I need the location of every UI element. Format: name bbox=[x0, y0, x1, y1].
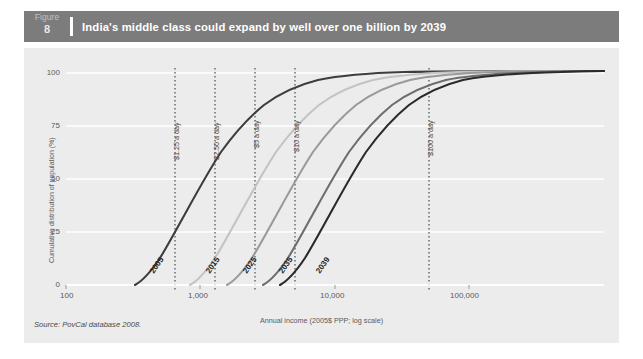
y-tick-100: 100 bbox=[34, 68, 60, 77]
threshold-label-100: $100 a day bbox=[426, 120, 435, 156]
series-curve-2025 bbox=[227, 71, 604, 285]
figure-container: Figure 8 India's middle class could expa… bbox=[0, 0, 643, 359]
y-tick-0: 0 bbox=[34, 280, 60, 289]
series-curve-2015 bbox=[190, 71, 604, 285]
threshold-label-10: $10 a day bbox=[292, 120, 301, 152]
gridlines bbox=[66, 73, 604, 285]
x-tick-100000: 100,000 bbox=[450, 291, 479, 300]
series-curve-2005 bbox=[135, 71, 604, 285]
threshold-label-1-25: $1.25 a day bbox=[172, 122, 181, 160]
source-note: Source: PovCal database 2008. bbox=[34, 320, 141, 329]
series-curve-2039 bbox=[280, 71, 604, 285]
figure-title: India's middle class could expand by wel… bbox=[82, 21, 446, 33]
figure-word-label: Figure bbox=[24, 13, 70, 22]
x-tick-10000: 10,000 bbox=[320, 291, 344, 300]
x-tick-1000: 1,000 bbox=[188, 291, 208, 300]
x-tick-100: 100 bbox=[60, 291, 73, 300]
y-tick-75: 75 bbox=[34, 121, 60, 130]
y-tick-50: 50 bbox=[34, 174, 60, 183]
figure-number-value: 8 bbox=[24, 23, 70, 35]
y-axis-title: Cumulative distribution of population (%… bbox=[48, 137, 55, 263]
y-tick-25: 25 bbox=[34, 227, 60, 236]
threshold-label-5: $5 a day bbox=[252, 120, 261, 148]
header-divider-rule bbox=[70, 17, 73, 36]
figure-number-block: Figure 8 bbox=[24, 11, 70, 42]
threshold-label-2-50: $2.50 a day bbox=[212, 122, 221, 160]
chart-panel: 100 75 50 25 0 100 1,000 10,000 100,000 … bbox=[24, 48, 619, 343]
series-curves bbox=[135, 71, 604, 285]
figure-header-banner: Figure 8 India's middle class could expa… bbox=[24, 11, 619, 42]
series-curve-2035 bbox=[263, 71, 604, 285]
